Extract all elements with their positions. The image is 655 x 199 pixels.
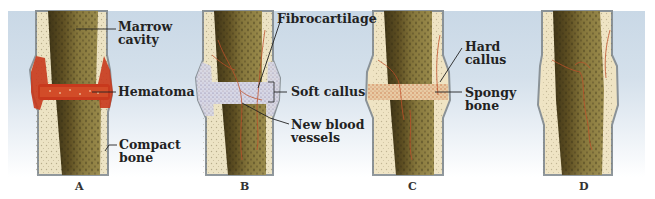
label-soft-callus: Soft callus: [291, 85, 365, 98]
label-marrow-cavity: Marrow cavity: [118, 20, 172, 46]
panel-letter-a: A: [75, 180, 84, 193]
label-hard-line2: callus: [465, 53, 506, 66]
panel-letter-d: D: [579, 180, 589, 193]
label-spongy-line2: bone: [465, 99, 516, 112]
label-spongy-bone: Spongy bone: [465, 86, 516, 112]
label-hematoma: Hematoma: [118, 85, 195, 98]
label-hard-callus: Hard callus: [465, 40, 506, 66]
label-compact-bone: Compact bone: [119, 138, 181, 164]
label-vessels-line2: vessels: [291, 131, 364, 144]
label-compact-line2: bone: [119, 151, 181, 164]
label-marrow-line2: cavity: [118, 33, 172, 46]
panel-letter-c: C: [408, 180, 417, 193]
label-fibrocartilage: Fibrocartilage: [277, 12, 377, 25]
fracture-repair-diagram: [0, 0, 655, 199]
label-new-blood-vessels: New blood vessels: [291, 118, 364, 144]
panel-letter-b: B: [240, 180, 249, 193]
